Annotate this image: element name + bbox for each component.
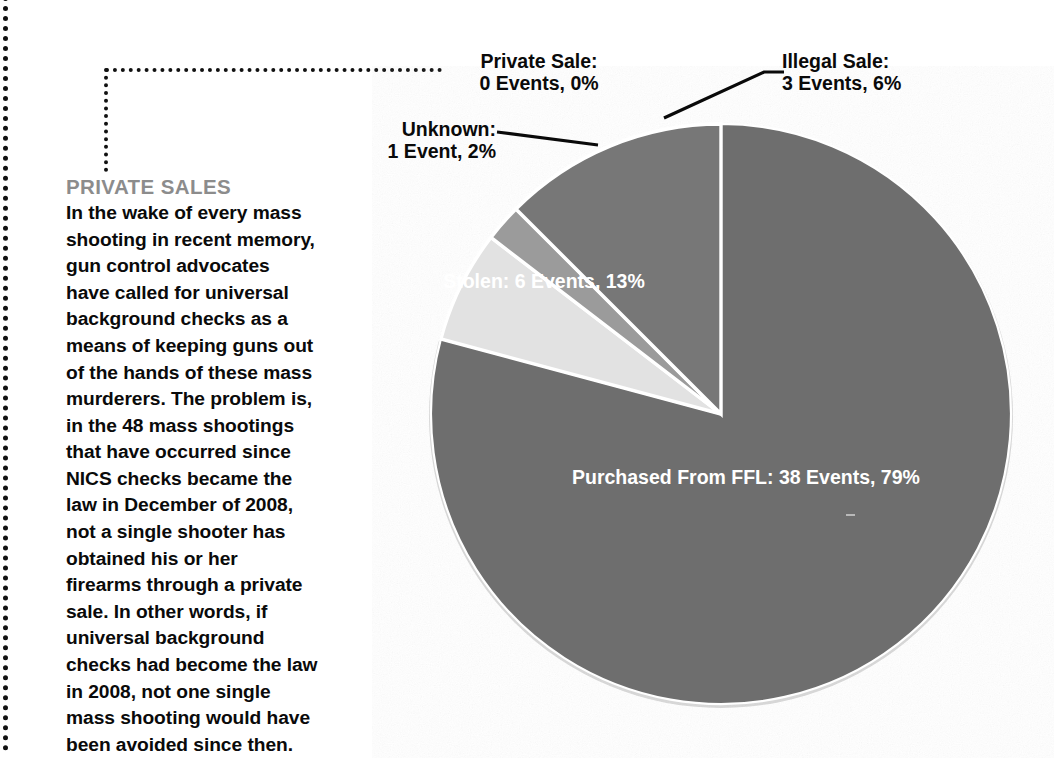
callout-private-sale: Private Sale: 0 Events, 0%	[449, 50, 629, 94]
slice-label-purchased-from-ffl: Purchased From FFL: 38 Events, 79%	[572, 466, 852, 488]
callout-illegal-sale: Illegal Sale: 3 Events, 6%	[782, 50, 901, 94]
slice-label-stolen: Stolen: 6 Events, 13%	[438, 270, 650, 292]
copy-body: In the wake of every mass shooting in re…	[66, 200, 318, 758]
page-gutter-dotted-rule	[3, 0, 8, 751]
copy-heading: PRIVATE SALES	[66, 176, 318, 199]
slice-label-ffl-line1: Purchased From FFL:	[572, 466, 774, 488]
slice-label-stolen-line1: Stolen:	[443, 270, 509, 292]
callout-unknown: Unknown: 1 Event, 2%	[360, 118, 496, 162]
private-sale-leader-vertical	[104, 68, 108, 172]
slice-label-stolen-line2: 6 Events, 13%	[515, 270, 645, 292]
slice-label-ffl-line2: 38 Events, 79%	[779, 466, 920, 488]
callout-private-sale-line1: Private Sale:	[480, 50, 597, 72]
print-artifact-dash	[846, 514, 855, 516]
illegal-sale-leader-line	[664, 72, 784, 118]
pie-slice-group	[431, 124, 1011, 704]
copy-block: PRIVATE SALES In the wake of every mass …	[66, 176, 318, 758]
callout-unknown-line2: 1 Event, 2%	[360, 140, 496, 162]
private-sale-leader-horizontal	[105, 68, 442, 72]
pie-chart-svg	[426, 120, 1012, 706]
callout-illegal-sale-line1: Illegal Sale:	[782, 50, 889, 72]
callout-illegal-sale-line2: 3 Events, 6%	[782, 72, 901, 94]
callout-unknown-line1: Unknown:	[402, 118, 496, 140]
callout-private-sale-line2: 0 Events, 0%	[449, 72, 629, 94]
pie-chart	[426, 120, 1012, 706]
